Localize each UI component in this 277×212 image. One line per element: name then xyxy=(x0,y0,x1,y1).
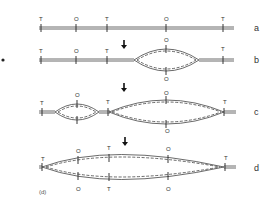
terminus-label: T xyxy=(41,156,45,162)
origin-label: O xyxy=(164,90,169,96)
origin-label: O xyxy=(75,92,80,98)
row-label-b: b xyxy=(254,55,259,65)
origin-label: O xyxy=(76,148,81,154)
terminus-label: T xyxy=(40,100,44,106)
terminus-label: T xyxy=(223,99,227,105)
stray-mark xyxy=(1,58,4,61)
terminus-label: T xyxy=(39,48,43,54)
row-b: T O T O T O b xyxy=(39,37,259,82)
terminus-label: T xyxy=(107,145,111,151)
arrow-down-icon xyxy=(121,40,127,49)
origin-label: O xyxy=(164,37,169,43)
origin-label: O xyxy=(74,16,79,22)
origin-label: O xyxy=(165,128,170,134)
row-d: T O T O T O T O d xyxy=(39,145,259,192)
terminus-label: T xyxy=(224,155,228,161)
row-a: T O T O T a xyxy=(39,16,259,33)
row-label-a: a xyxy=(254,23,259,33)
terminus-label: T xyxy=(105,16,109,22)
row-label-d: d xyxy=(254,163,259,173)
origin-label: O xyxy=(164,16,169,22)
replication-diagram: T O T O T a T O T O T O b xyxy=(0,0,277,212)
row-c: T O T O T O c xyxy=(39,90,259,134)
origin-label: O xyxy=(164,76,169,82)
terminus-label: T xyxy=(106,99,110,105)
origin-label: O xyxy=(76,186,81,192)
arrow-down-icon xyxy=(122,137,128,146)
terminus-label: T xyxy=(105,48,109,54)
arrow-down-icon xyxy=(121,83,127,92)
terminus-label: T xyxy=(221,46,225,52)
terminus-label: T xyxy=(221,16,225,22)
origin-label: O xyxy=(166,146,171,152)
figure-caption: (d) xyxy=(39,189,46,195)
terminus-label: T xyxy=(39,16,43,22)
row-label-c: c xyxy=(254,107,259,117)
origin-label: O xyxy=(166,186,171,192)
terminus-label: T xyxy=(107,186,111,192)
origin-label: O xyxy=(74,48,79,54)
